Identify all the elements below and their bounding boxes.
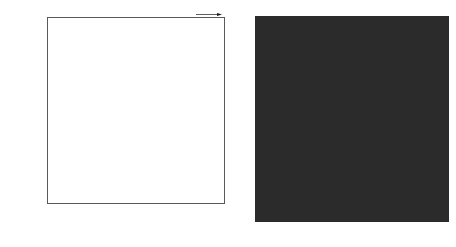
velocity-vector-field bbox=[48, 18, 224, 203]
velocity-field-panel bbox=[0, 0, 236, 232]
plot-frame bbox=[47, 17, 225, 204]
particle-image-panel bbox=[255, 16, 449, 222]
particle-image bbox=[255, 16, 449, 222]
figure-container bbox=[0, 0, 456, 247]
reference-vector-arrow-icon bbox=[196, 13, 222, 16]
